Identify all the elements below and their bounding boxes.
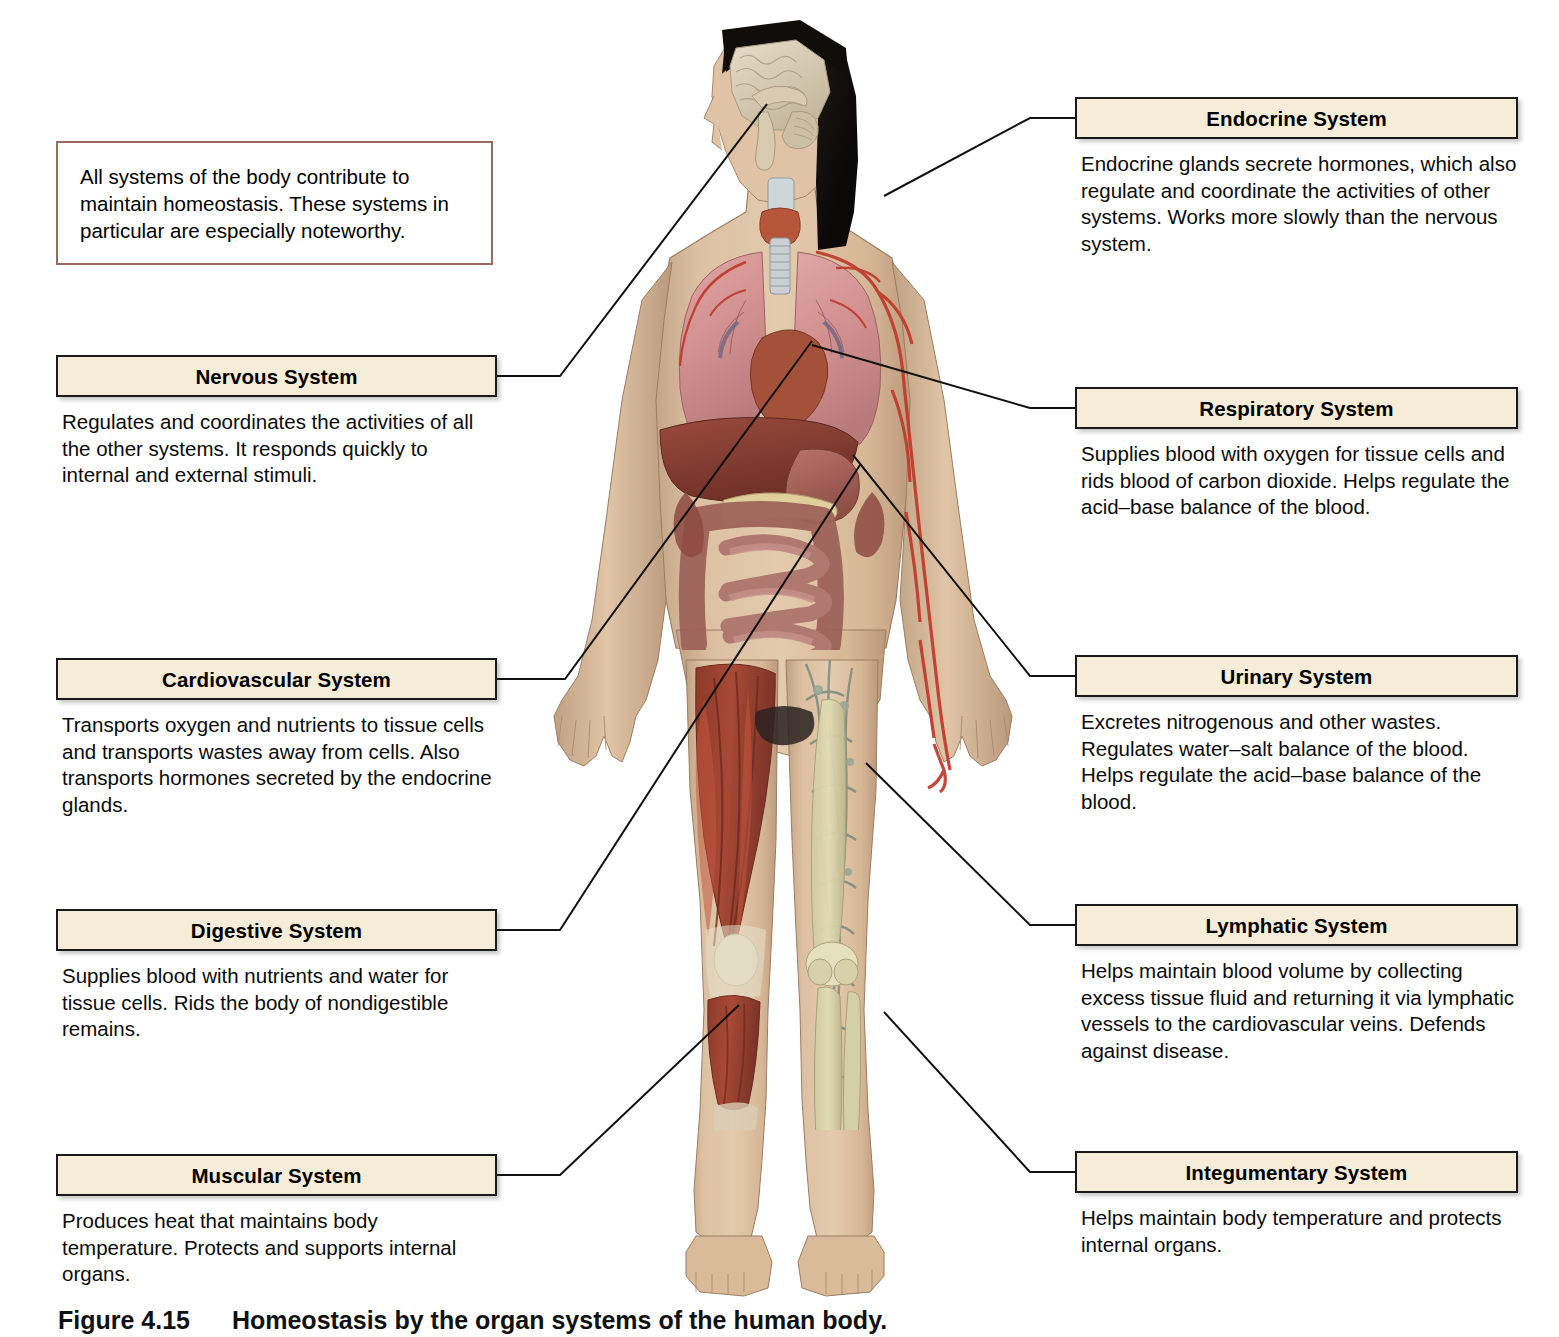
leader-muscular	[497, 1005, 739, 1175]
title-urinary-system[interactable]: Urinary System	[1075, 655, 1518, 697]
leader-urinary	[853, 455, 1075, 676]
homeostasis-note-text: All systems of the body contribute to ma…	[58, 163, 491, 244]
title-cardiovascular-system[interactable]: Cardiovascular System	[56, 658, 497, 700]
homeostasis-note: All systems of the body contribute to ma…	[56, 141, 493, 265]
figure-caption-text: Homeostasis by the organ systems of the …	[232, 1306, 887, 1334]
leader-endocrine	[884, 118, 1075, 196]
title-lymphatic-system[interactable]: Lymphatic System	[1075, 904, 1518, 946]
title-digestive-system[interactable]: Digestive System	[56, 909, 497, 951]
title-endocrine-system[interactable]: Endocrine System	[1075, 97, 1518, 139]
title-integumentary-system[interactable]: Integumentary System	[1075, 1151, 1518, 1193]
title-respiratory-system[interactable]: Respiratory System	[1075, 387, 1518, 429]
leader-integumentary	[884, 1012, 1075, 1172]
figure-caption: Figure 4.15 Homeostasis by the organ sys…	[58, 1306, 1058, 1337]
leader-lymphatic	[866, 763, 1075, 925]
title-nervous-system[interactable]: Nervous System	[56, 355, 497, 397]
leader-nervous	[497, 104, 767, 376]
leader-cardiovascular	[497, 341, 812, 679]
figure-number: Figure 4.15	[58, 1306, 190, 1334]
title-muscular-system[interactable]: Muscular System	[56, 1154, 497, 1196]
leader-digestive	[497, 465, 860, 930]
leader-respiratory	[812, 345, 1075, 408]
